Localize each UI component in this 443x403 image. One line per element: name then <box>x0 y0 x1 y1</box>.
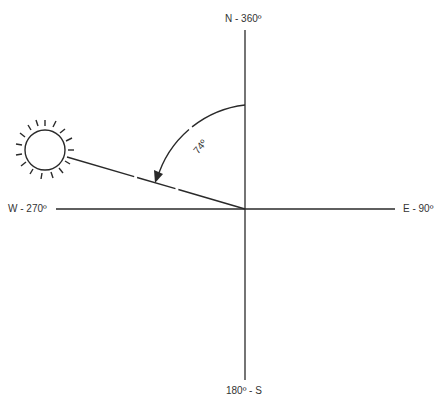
east-label: E - 90º <box>403 204 433 214</box>
sun-direction-line <box>67 157 245 209</box>
north-label: N - 360º <box>225 14 261 24</box>
arrowhead-icon <box>154 170 163 183</box>
south-label: 180º - S <box>226 386 262 396</box>
sun-icon <box>16 120 74 179</box>
west-label: W - 270º <box>8 204 47 214</box>
compass-diagram <box>0 0 443 403</box>
